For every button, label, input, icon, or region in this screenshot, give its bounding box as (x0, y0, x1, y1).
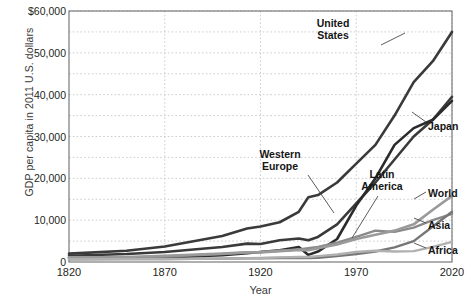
series-label-world: World (428, 187, 458, 199)
leader-line-world (414, 192, 426, 199)
series-label-line: Europe (240, 160, 320, 172)
series-label-line: World (428, 187, 458, 199)
series-label-line: Latin (342, 168, 422, 180)
series-label-line: America (342, 180, 422, 192)
plot-area (0, 0, 471, 303)
series-label-line: Western (240, 148, 320, 160)
series-label-western-europe: WesternEurope (240, 148, 320, 172)
leader-line-japan (412, 112, 426, 122)
x-tick-label: 1970 (326, 266, 386, 278)
series-label-asia: Asia (428, 219, 450, 231)
series-label-japan: Japan (428, 120, 458, 132)
gridlines (69, 11, 452, 262)
leader-line-africa (414, 243, 426, 248)
series-label-united-states: UnitedStates (293, 17, 373, 41)
series-label-africa: Africa (428, 244, 458, 256)
x-tick-label: 1870 (135, 266, 195, 278)
series-label-latin-america: LatinAmerica (342, 168, 422, 192)
series-label-line: Asia (428, 219, 450, 231)
x-tick-label: 2020 (422, 266, 471, 278)
x-tick-label: 1920 (231, 266, 291, 278)
gdp-per-capita-chart: GDP per capita in 2011 U.S. dollars $60,… (0, 0, 471, 303)
leader-line-western-europe (308, 175, 334, 213)
series-label-line: Africa (428, 244, 458, 256)
series-label-line: United (293, 17, 373, 29)
x-tick-label: 1820 (39, 266, 99, 278)
annotation-leader-lines (308, 33, 426, 248)
series-label-line: Japan (428, 120, 458, 132)
leader-line-united-states (381, 33, 405, 45)
series-label-line: States (293, 29, 373, 41)
